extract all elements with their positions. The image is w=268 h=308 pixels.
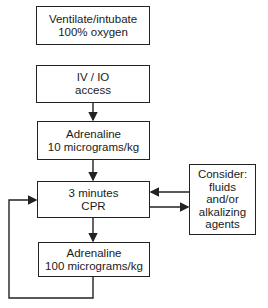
node-consider-line-1: Consider: (198, 168, 247, 181)
node-consider-line-5: agents (205, 218, 240, 231)
node-access-line-1: IV / IO (77, 71, 110, 84)
node-consider: Consider: fluids and/or alkalizing agent… (189, 164, 256, 235)
node-consider-line-4: alkalizing (199, 206, 246, 219)
node-adrenaline-100-line-2: 100 micrograms/kg (45, 260, 143, 273)
node-adrenaline-100-line-1: Adrenaline (67, 247, 122, 260)
node-consider-line-2: fluids (209, 181, 236, 194)
node-adrenaline-10: Adrenaline 10 micrograms/kg (37, 121, 150, 160)
node-cpr-line-2: CPR (81, 200, 105, 213)
node-cpr: 3 minutes CPR (37, 181, 150, 218)
node-adrenaline-100: Adrenaline 100 micrograms/kg (38, 242, 150, 277)
node-ventilate: Ventilate/intubate 100% oxygen (36, 6, 150, 45)
node-cpr-line-1: 3 minutes (69, 187, 119, 200)
node-ventilate-line-2: 100% oxygen (58, 26, 128, 39)
node-consider-line-3: and/or (206, 193, 239, 206)
node-adrenaline-10-line-2: 10 micrograms/kg (48, 141, 139, 154)
node-ventilate-line-1: Ventilate/intubate (49, 13, 137, 26)
node-adrenaline-10-line-1: Adrenaline (66, 128, 121, 141)
node-access-line-2: access (75, 84, 111, 97)
node-access: IV / IO access (36, 65, 150, 103)
